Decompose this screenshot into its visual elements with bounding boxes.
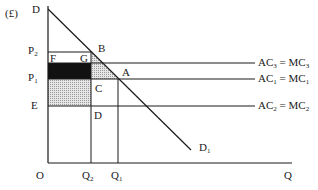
point-c-label: C <box>95 83 102 94</box>
black-area-fg <box>48 63 91 79</box>
origin-label: O <box>36 170 44 181</box>
point-g-label: G <box>80 53 88 64</box>
demand-top-label: D <box>32 4 40 15</box>
x-axis-q-label: Q <box>284 170 292 181</box>
ac2-mc2-label: AC2 = MC2 <box>258 100 309 111</box>
point-f-label: F <box>50 53 56 64</box>
point-d-label: D <box>94 110 102 121</box>
e-label: E <box>31 100 38 111</box>
q1-label: Q1 <box>111 170 122 181</box>
q2-label: Q2 <box>82 170 93 181</box>
p2-label: P2 <box>28 45 38 56</box>
point-a-label: A <box>122 67 130 78</box>
ac1-mc1-label: AC1 = MC1 <box>258 73 309 84</box>
diagram-canvas <box>0 0 318 190</box>
point-b-label: B <box>98 43 105 54</box>
demand-d1-label: D1 <box>199 142 210 153</box>
currency-unit-label: (£) <box>5 8 18 19</box>
ac3-mc3-label: AC3 = MC3 <box>258 57 309 68</box>
stippled-area-cost-saving <box>48 79 91 106</box>
p1-label: P1 <box>28 72 38 83</box>
